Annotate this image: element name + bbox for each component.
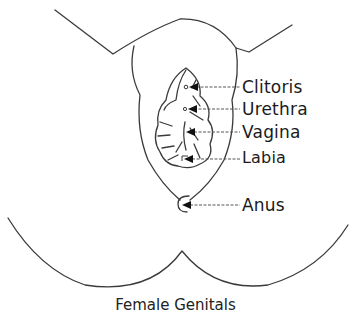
arrow-urethra-icon <box>188 105 197 113</box>
upper-body-outline <box>55 10 292 54</box>
label-vagina: Vagina <box>242 124 301 141</box>
urethra-marker <box>183 107 186 110</box>
clitoris-marker <box>184 85 188 89</box>
diagram-caption: Female Genitals <box>0 298 351 311</box>
label-labia: Labia <box>242 150 286 166</box>
label-anus: Anus <box>242 197 285 214</box>
lower-body-outline <box>8 218 348 287</box>
anatomy-diagram <box>0 0 351 311</box>
labia-texture <box>158 80 203 160</box>
label-urethra: Urethra <box>242 101 308 118</box>
label-clitoris: Clitoris <box>242 79 303 96</box>
arrow-anus-icon <box>182 201 191 209</box>
inner-fold <box>164 70 186 110</box>
labia-outline <box>155 68 212 168</box>
